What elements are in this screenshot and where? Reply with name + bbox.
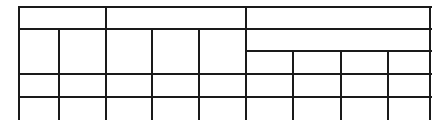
column-divider-6 bbox=[292, 50, 294, 120]
table-left-border bbox=[18, 6, 20, 120]
group-divider-1 bbox=[105, 6, 107, 120]
table-top-border bbox=[19, 6, 432, 8]
body-row-divider-1 bbox=[19, 73, 432, 75]
column-divider-4 bbox=[198, 28, 200, 120]
column-divider-7 bbox=[340, 50, 342, 120]
header-row-divider bbox=[19, 28, 432, 30]
column-divider-3 bbox=[151, 28, 153, 120]
column-divider-1 bbox=[58, 28, 60, 120]
body-row-divider-2 bbox=[19, 96, 432, 98]
empty-table-grid bbox=[0, 0, 440, 124]
group-divider-2 bbox=[245, 6, 247, 120]
table-right-border bbox=[429, 6, 431, 120]
right-group-subheader-divider bbox=[246, 50, 432, 52]
column-divider-8 bbox=[387, 50, 389, 120]
